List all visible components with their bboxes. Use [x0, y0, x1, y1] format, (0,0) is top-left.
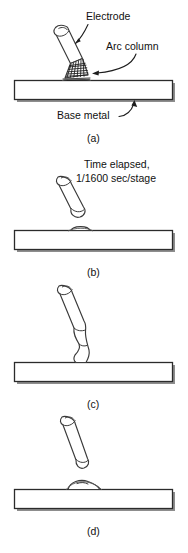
panel-a-caption: (a): [87, 132, 100, 144]
panel-b: Time elapsed, 1/1600 sec/stage (b): [15, 158, 176, 278]
panel-a-arc-column-label-group: Arc column: [92, 40, 159, 76]
panel-c-caption: (c): [87, 398, 99, 410]
base-metal-label: Base metal: [57, 109, 110, 121]
arc-column-leader-line: [97, 54, 136, 73]
welding-stages-figure: Electrode Arc column Base metal (a) Time…: [0, 0, 188, 553]
time-elapsed-label-line1: Time elapsed,: [84, 158, 150, 170]
panel-d: (d): [15, 416, 176, 537]
panel-b-caption: (b): [87, 266, 100, 278]
panel-c: (c): [15, 285, 176, 410]
panel-b-time-annotation: Time elapsed, 1/1600 sec/stage: [76, 158, 156, 184]
panel-a-base-metal-label-group: Base metal: [57, 100, 137, 121]
panel-a-electrode-label-group: Electrode: [76, 10, 131, 44]
panel-b-base-metal-plate: [15, 231, 176, 253]
time-elapsed-label-line2: 1/1600 sec/stage: [76, 172, 156, 184]
panel-a: Electrode Arc column Base metal (a): [15, 10, 176, 144]
panel-c-electrode: [57, 285, 89, 362]
panel-c-base-metal-plate: [15, 363, 176, 385]
panel-a-base-metal-plate: [15, 81, 176, 103]
panel-a-arc-column: [63, 59, 90, 81]
arc-column-leader-arrowhead: [92, 71, 99, 76]
panel-d-caption: (d): [87, 525, 100, 537]
arc-column-label: Arc column: [106, 40, 159, 52]
panel-a-electrode: [54, 25, 83, 63]
panel-d-weld-bead: [66, 480, 102, 490]
panel-b-weld-bead: [68, 227, 93, 231]
panel-d-base-metal-plate: [15, 490, 176, 512]
electrode-label: Electrode: [86, 10, 131, 22]
panel-d-electrode: [60, 416, 88, 468]
